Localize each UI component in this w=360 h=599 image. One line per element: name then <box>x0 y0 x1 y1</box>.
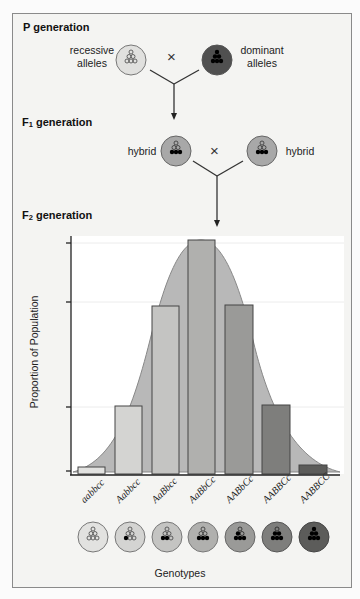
hybrid-right-circle-icon <box>247 136 277 166</box>
f1-cross-lines <box>193 161 243 221</box>
arrow-head-icon <box>214 220 220 227</box>
x-axis-title: Genotypes <box>0 567 360 579</box>
diagram-graphics <box>0 0 360 599</box>
genotype-circle-icon <box>152 522 182 552</box>
bar-aabbcc <box>78 467 105 474</box>
dominant-circle-icon <box>202 45 232 75</box>
recessive-circle-icon <box>116 45 146 75</box>
arrow-head-icon <box>171 113 177 120</box>
bar-AABbCc <box>225 305 253 474</box>
genotype-circle-icon <box>188 522 218 552</box>
bar-Aabbcc <box>115 406 142 474</box>
genotype-circle-icon <box>78 522 108 552</box>
genotype-circle-icon <box>115 522 145 552</box>
hybrid-left-circle-icon <box>161 136 191 166</box>
genotype-circle-icon <box>299 522 329 552</box>
bar-AABBCc <box>262 405 290 474</box>
p-cross-lines <box>150 70 199 114</box>
genotype-circle-icon <box>225 522 255 552</box>
y-axis-label: Proportion of Population <box>28 282 40 422</box>
bar-AaBbcc <box>152 306 179 474</box>
genotype-circles <box>78 522 329 552</box>
bar-AaBbCc <box>188 240 215 474</box>
genotype-circle-icon <box>262 522 292 552</box>
